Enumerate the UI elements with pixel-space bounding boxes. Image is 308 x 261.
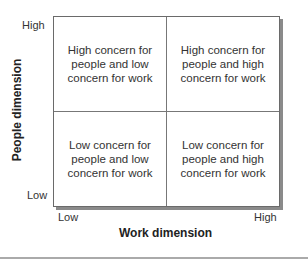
y-axis-label: People dimension — [10, 55, 24, 165]
quadrant-top-left: High concern for people and low concern … — [54, 17, 166, 111]
quadrant-bottom-right: Low concern for people and high concern … — [167, 112, 279, 206]
x-tick-low: Low — [58, 211, 78, 223]
quadrant-top-right: High concern for people and high concern… — [167, 17, 279, 111]
y-tick-high: High — [22, 19, 45, 31]
x-axis-label: Work dimension — [53, 226, 278, 240]
bottom-rule — [0, 257, 308, 259]
y-tick-low: Low — [27, 189, 47, 201]
x-tick-high: High — [254, 211, 277, 223]
matrix-grid: High concern for people and low concern … — [53, 16, 280, 207]
quadrant-bottom-left: Low concern for people and low concern f… — [54, 112, 166, 206]
